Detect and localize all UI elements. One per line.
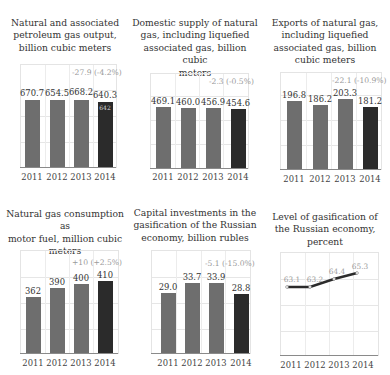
bar-inner-label: 642	[95, 104, 115, 111]
bar-2013	[74, 284, 89, 353]
bar-2012	[181, 108, 196, 168]
chart-title: Exports of natural gas, including liquef…	[260, 17, 390, 67]
chart-domestic-supply: Domestic supply of natural gas, includin…	[130, 0, 260, 190]
bar-2011	[156, 107, 171, 168]
bar-2011	[161, 293, 176, 353]
change-annotation: -27.9 (-4.2%)	[72, 68, 122, 77]
chart-gas-output: Natural and associated petroleum gas out…	[0, 0, 130, 190]
change-annotation: +10 (+2.5%)	[72, 258, 122, 267]
chart-exports: Exports of natural gas, including liquef…	[260, 0, 390, 190]
bar-value: 640.3	[90, 90, 120, 100]
x-tick: 2014	[90, 358, 120, 368]
x-axis	[150, 168, 248, 169]
change-annotation: -5.1 (-15.0%)	[205, 259, 255, 268]
x-axis	[20, 353, 118, 354]
bar-2013	[209, 283, 224, 353]
x-tick: 2014	[355, 174, 385, 184]
bar-2013	[206, 108, 221, 168]
bar-2014	[98, 281, 113, 353]
change-annotation: -2.3 (-0.5%)	[209, 77, 254, 86]
bar-2013	[74, 100, 89, 167]
bar-value: 181.2	[355, 96, 385, 106]
bar-2012	[50, 100, 65, 167]
x-axis	[280, 169, 381, 170]
x-tick: 2014	[223, 172, 253, 182]
bar-2011	[25, 100, 40, 167]
chart-capital-investments: Capital investments in the gasification …	[130, 190, 260, 375]
bar-2012	[185, 283, 200, 353]
bar-value: 28.8	[226, 283, 256, 293]
change-annotation: -22.1 (-10.9%)	[332, 76, 387, 85]
bar-value: 454.6	[223, 98, 253, 108]
bar-2011	[287, 101, 302, 169]
bar-2014	[363, 107, 378, 169]
bar-value: 410	[90, 270, 120, 280]
x-tick: 2014	[348, 360, 378, 370]
point-value: 65.3	[347, 262, 373, 271]
chart-title: Natural and associated petroleum gas out…	[0, 17, 130, 54]
x-axis	[20, 167, 116, 168]
x-axis	[151, 353, 250, 354]
x-tick: 2014	[90, 172, 120, 182]
chart-title: Domestic supply of natural gas, includin…	[130, 17, 260, 79]
bar-2014	[98, 102, 113, 167]
chart-title: Capital investments in the gasification …	[130, 207, 260, 244]
bar-2014	[231, 109, 246, 168]
bar-2013	[338, 99, 353, 169]
bar-value: 362	[18, 286, 48, 296]
chart-gasification-level: Level of gasification of the Russian eco…	[260, 190, 390, 375]
bar-2012	[313, 105, 328, 169]
chart-motor-fuel: Natural gas consumption as motor fuel, m…	[0, 190, 130, 375]
point-value: 63.2	[302, 275, 328, 284]
bar-2011	[26, 297, 41, 353]
x-tick: 2014	[226, 358, 256, 368]
bar-value: 33.9	[201, 272, 231, 282]
bar-2012	[50, 288, 65, 353]
bar-value: 29.0	[153, 282, 183, 292]
bar-2014	[234, 294, 249, 353]
